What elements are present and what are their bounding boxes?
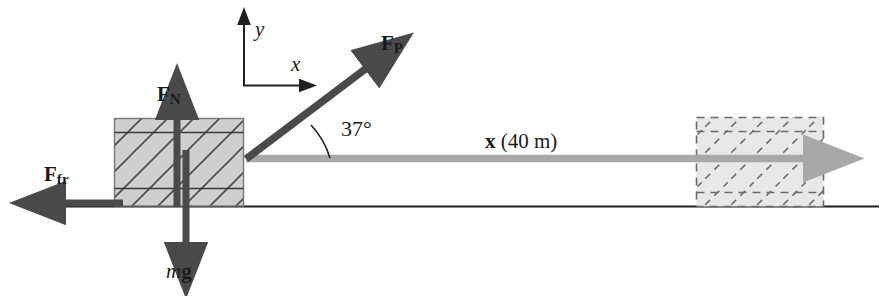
angle-label: 37° <box>341 118 372 140</box>
y-axis-label: y <box>255 19 264 40</box>
applied-force-label: FP <box>381 33 403 56</box>
displacement-symbol: x <box>485 129 496 153</box>
normal-force-symbol: F <box>157 82 170 106</box>
angle-arc <box>311 125 330 158</box>
weight-label: mg <box>166 261 192 282</box>
x-axis-label: x <box>291 54 300 75</box>
physics-diagram-canvas: FN Ffr FP mg y x 37° x (40 m) <box>0 0 883 296</box>
applied-force-subscript: P <box>394 40 403 56</box>
friction-force-symbol: F <box>44 162 57 186</box>
normal-force-label: FN <box>157 84 181 107</box>
friction-force-subscript: fr <box>57 171 69 187</box>
weight-mass-symbol: m <box>166 259 181 283</box>
normal-force-subscript: N <box>170 91 181 107</box>
applied-force-symbol: F <box>381 31 394 55</box>
displacement-label: x (40 m) <box>485 131 557 152</box>
weight-gravity-symbol: g <box>181 259 192 283</box>
friction-force-label: Ffr <box>44 164 69 187</box>
displacement-value: (40 m) <box>501 129 558 153</box>
applied-force-arrow <box>246 64 372 159</box>
diagram-vector-layer <box>0 0 883 296</box>
